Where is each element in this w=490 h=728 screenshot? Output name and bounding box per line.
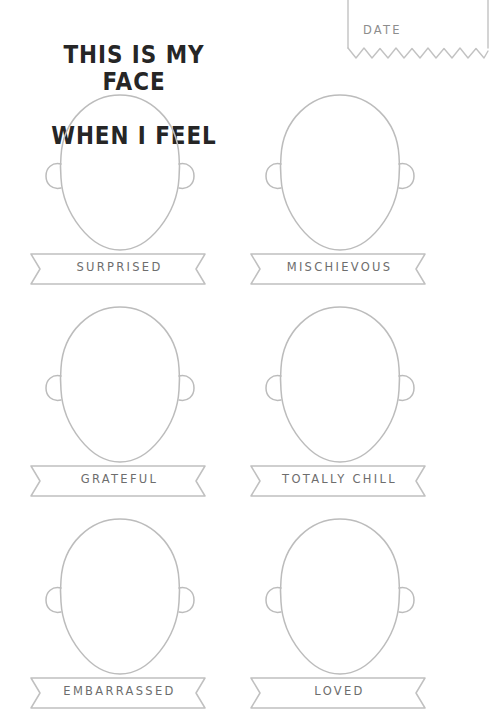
- blank-face-outline-icon[interactable]: [36, 92, 204, 254]
- face-cell-embarrassed[interactable]: EMBARRASSED: [17, 512, 222, 724]
- emotion-label: GRATEFUL: [29, 472, 210, 486]
- blank-face-outline-icon[interactable]: [256, 516, 424, 678]
- face-row: GRATEFUL TOTALLY CHILL: [0, 300, 486, 512]
- date-box[interactable]: DATE: [345, 0, 490, 64]
- emotion-label: SURPRISED: [29, 260, 210, 274]
- blank-face-outline-icon[interactable]: [256, 92, 424, 254]
- face-cell-loved[interactable]: LOVED: [237, 512, 442, 724]
- date-label: DATE: [363, 23, 402, 37]
- face-row: EMBARRASSED LOVED: [0, 512, 486, 724]
- emotion-banner[interactable]: MISCHIEVOUS: [249, 249, 430, 289]
- face-cell-surprised[interactable]: SURPRISED: [17, 88, 222, 300]
- emotion-label: TOTALLY CHILL: [249, 472, 430, 486]
- emotion-label: LOVED: [249, 684, 430, 698]
- emotion-banner[interactable]: SURPRISED: [29, 249, 210, 289]
- worksheet-header: THIS IS MY FACE WHEN I FEEL DATE: [0, 0, 486, 90]
- emotion-banner[interactable]: EMBARRASSED: [29, 673, 210, 713]
- face-row: SURPRISED MISCHIEVOUS: [0, 88, 486, 300]
- page-title-line-1: THIS IS MY FACE: [31, 41, 237, 95]
- emotion-banner[interactable]: GRATEFUL: [29, 461, 210, 501]
- emotion-banner[interactable]: LOVED: [249, 673, 430, 713]
- blank-face-outline-icon[interactable]: [36, 304, 204, 466]
- face-cell-mischievous[interactable]: MISCHIEVOUS: [237, 88, 442, 300]
- emotion-banner[interactable]: TOTALLY CHILL: [249, 461, 430, 501]
- emotion-label: MISCHIEVOUS: [249, 260, 430, 274]
- face-cell-totally-chill[interactable]: TOTALLY CHILL: [237, 300, 442, 512]
- emotion-label: EMBARRASSED: [29, 684, 210, 698]
- blank-face-outline-icon[interactable]: [256, 304, 424, 466]
- faces-grid: SURPRISED MISCHIEVOUS: [0, 88, 486, 724]
- face-cell-grateful[interactable]: GRATEFUL: [17, 300, 222, 512]
- blank-face-outline-icon[interactable]: [36, 516, 204, 678]
